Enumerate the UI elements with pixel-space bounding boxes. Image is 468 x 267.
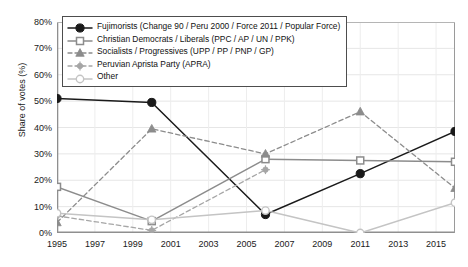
legend-marker-open-square-icon	[67, 33, 93, 45]
data-point-open-square	[77, 37, 84, 44]
legend-item[interactable]: Fujimorists (Change 90 / Peru 2000 / For…	[67, 20, 340, 33]
x-axis-tick-label: 1999	[113, 239, 153, 249]
data-point-filled-triangle	[261, 149, 269, 157]
marker-open-circle	[76, 75, 83, 82]
legend-marker-plus-icon	[67, 58, 93, 70]
data-point-open-circle	[76, 75, 83, 82]
marker-open-circle	[451, 199, 455, 206]
marker-filled-triangle	[356, 107, 364, 115]
marker-filled-circle	[356, 170, 364, 178]
data-point-filled-circle	[451, 127, 455, 135]
marker-open-square	[452, 158, 456, 165]
legend-marker-filled-circle-icon	[67, 20, 93, 32]
legend-marker-filled-triangle-icon	[67, 45, 93, 57]
marker-open-circle	[57, 210, 61, 217]
x-axis-tick-label: 2015	[416, 239, 456, 249]
marker-open-circle	[262, 207, 269, 214]
series-4	[57, 199, 455, 233]
data-point-open-circle	[451, 199, 455, 206]
y-axis-tick-label: 20%	[20, 176, 52, 185]
x-axis-tick-label: 2013	[378, 239, 418, 249]
data-point-filled-triangle	[148, 124, 156, 132]
legend-label: Fujimorists (Change 90 / Peru 2000 / For…	[97, 22, 340, 30]
data-point-open-square	[452, 158, 456, 165]
x-axis-ticks: 1995199719992001200320052007200920112013…	[0, 239, 468, 259]
marker-filled-circle	[148, 98, 156, 106]
x-axis-tick-label: 2009	[302, 239, 342, 249]
chart-legend: Fujimorists (Change 90 / Peru 2000 / For…	[62, 16, 347, 87]
marker-filled-circle	[76, 24, 84, 32]
data-point-plus	[76, 62, 85, 71]
marker-open-circle	[148, 216, 155, 223]
y-axis-tick-label: 60%	[20, 70, 52, 79]
y-axis-tick-label: 70%	[20, 44, 52, 53]
data-point-open-circle	[148, 216, 155, 223]
series-line	[57, 170, 265, 231]
series-0	[57, 94, 455, 218]
data-point-open-circle	[57, 210, 61, 217]
x-axis-tick-label: 2007	[264, 239, 304, 249]
y-axis-tick-label: 40%	[20, 123, 52, 132]
legend-item[interactable]: Socialists / Progressives (UPP / PP / PN…	[67, 45, 340, 58]
legend-marker-open-circle-icon	[67, 71, 93, 83]
marker-filled-circle	[451, 127, 455, 135]
data-point-filled-circle	[76, 24, 84, 32]
y-axis-tick-label: 0%	[20, 229, 52, 238]
legend-label: Christian Democrats / Liberals (PPC / AP…	[97, 35, 295, 43]
marker-open-circle	[357, 229, 364, 233]
legend-label: Peruvian Aprista Party (APRA)	[97, 60, 211, 68]
x-axis-tick-label: 1997	[75, 239, 115, 249]
data-point-filled-circle	[356, 170, 364, 178]
marker-filled-triangle	[148, 124, 156, 132]
x-axis-tick-label: 2003	[189, 239, 229, 249]
data-point-filled-triangle	[356, 107, 364, 115]
legend-label: Other	[97, 72, 118, 80]
marker-filled-circle	[57, 94, 61, 102]
x-axis-tick-label: 2001	[151, 239, 191, 249]
data-point-open-square	[57, 183, 61, 190]
data-point-open-circle	[262, 207, 269, 214]
data-point-filled-triangle	[451, 184, 455, 192]
x-axis-tick-label: 2011	[340, 239, 380, 249]
chart-container: Share of votes (%) 0%10%20%30%40%50%60%7…	[0, 0, 468, 267]
marker-open-square	[57, 183, 61, 190]
y-axis-tick-label: 10%	[20, 202, 52, 211]
x-axis-tick-label: 1995	[37, 239, 77, 249]
legend-item[interactable]: Other	[67, 70, 340, 83]
marker-open-square	[77, 37, 84, 44]
data-point-open-circle	[357, 229, 364, 233]
legend-label: Socialists / Progressives (UPP / PP / PN…	[97, 47, 274, 55]
marker-filled-triangle	[451, 184, 455, 192]
data-point-filled-circle	[148, 98, 156, 106]
series-1	[57, 156, 455, 225]
x-axis-tick-label: 2005	[227, 239, 267, 249]
y-axis-tick-label: 30%	[20, 149, 52, 158]
series-line	[57, 203, 455, 233]
marker-filled-triangle	[261, 149, 269, 157]
data-point-plus	[261, 165, 270, 174]
data-point-open-square	[357, 157, 364, 164]
y-axis-tick-label: 80%	[20, 18, 52, 27]
y-axis-tick-label: 50%	[20, 97, 52, 106]
y-axis-ticks: 0%10%20%30%40%50%60%70%80%	[16, 0, 52, 267]
marker-open-square	[357, 157, 364, 164]
legend-item[interactable]: Christian Democrats / Liberals (PPC / AP…	[67, 33, 340, 46]
series-line	[57, 98, 455, 214]
legend-item[interactable]: Peruvian Aprista Party (APRA)	[67, 58, 340, 71]
data-point-filled-circle	[57, 94, 61, 102]
